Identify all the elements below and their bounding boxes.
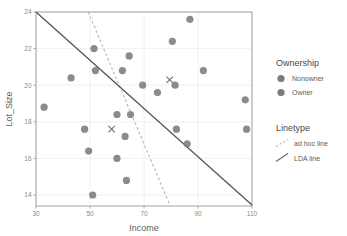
legend-swatch-nonowner	[277, 75, 284, 82]
legend-label-nonowner: Nonowner	[292, 75, 325, 82]
legend-label-lda-line: LDA line	[294, 155, 320, 162]
legend-swatch-owner	[277, 89, 284, 96]
legend-panel: Ownership Nonowner Owner Linetype ad hoc…	[0, 0, 347, 236]
legend-swatch-adhoc-line	[276, 140, 288, 147]
scatter-plot-figure: 30507090110141618202224IncomeLot_Size Ow…	[0, 0, 347, 236]
legend-swatch-lda-line	[276, 154, 288, 162]
legend-linetype-title: Linetype	[276, 123, 310, 133]
legend-label-adhoc-line: ad hoc line	[294, 140, 328, 147]
legend-label-owner: Owner	[292, 89, 313, 96]
legend-ownership-title: Ownership	[276, 58, 319, 68]
